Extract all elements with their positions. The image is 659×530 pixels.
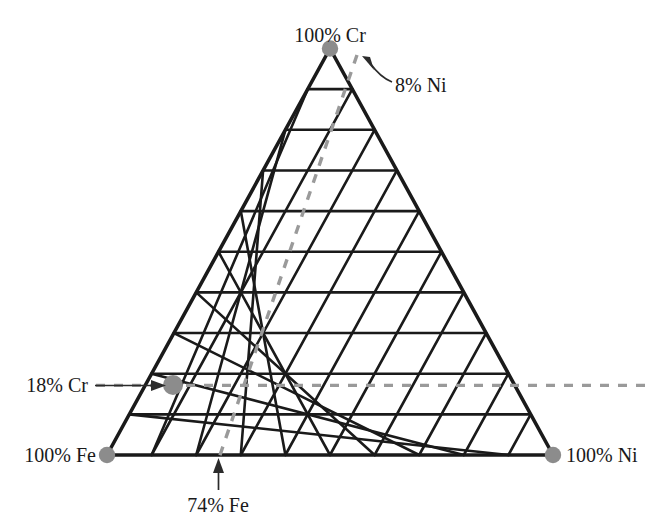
ternary-diagram-figure: 100% Cr 100% Fe 100% Ni 18% Cr 8% Ni 74%… (0, 0, 659, 530)
fe-annotation-arrow-head (213, 458, 224, 473)
ni-annotation-arrow-head (362, 56, 374, 70)
triangle-grid (129, 89, 530, 455)
label-fe-vertex: 100% Fe (24, 444, 96, 466)
label-cr-vertex: 100% Cr (294, 24, 366, 46)
grid-line-left-7 (419, 333, 486, 455)
vertex-dot-fe (99, 447, 115, 463)
ni-annotation-arrow-shaft (370, 63, 392, 82)
grid-line-left-3 (241, 170, 397, 455)
grid-line-right-9 (129, 414, 508, 455)
label-fe-annotation: 74% Fe (187, 494, 249, 516)
grid-line-left-9 (508, 414, 530, 455)
ni-guide-dashed-line (219, 55, 357, 458)
ternary-diagram-svg: 100% Cr 100% Fe 100% Ni 18% Cr 8% Ni 74%… (0, 0, 659, 530)
composition-marker-dot (163, 375, 183, 395)
label-cr-annotation: 18% Cr (26, 374, 88, 396)
vertex-dot-ni (545, 447, 561, 463)
label-ni-annotation: 8% Ni (395, 74, 447, 96)
label-ni-vertex: 100% Ni (566, 444, 638, 466)
